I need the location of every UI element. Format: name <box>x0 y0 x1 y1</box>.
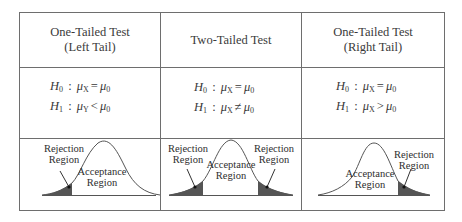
hypotheses-two-tailed: H0 : μX=μ0 H1 : μX≠μ0 <box>194 79 304 119</box>
left-tail-distribution-plot: Rejection Region Acceptance Region <box>20 139 160 211</box>
hypotheses-right-tail: H0 : μX=μ0 H1 : μX>μ0 <box>336 78 446 118</box>
rejection-region-label: Rejection Region <box>34 143 94 165</box>
header-subtitle: (Left Tail) <box>64 40 115 55</box>
hypothesis-test-table: One-Tailed Test (Left Tail) Two-Tailed T… <box>19 12 445 211</box>
header-left-tail: One-Tailed Test (Left Tail) <box>20 13 160 67</box>
header-subtitle: (Right Tail) <box>344 40 402 55</box>
acceptance-region-label: Acceptance Region <box>340 168 400 190</box>
row-divider <box>20 67 444 68</box>
alternative-hypothesis: H1 : μX≠μ0 <box>194 99 304 119</box>
null-hypothesis: H0 : μX=μ0 <box>336 78 446 98</box>
hypotheses-left-tail: H0 : μX=μ0 H1 : μY<μ0 <box>50 78 160 118</box>
header-right-tail: One-Tailed Test (Right Tail) <box>302 13 444 67</box>
header-title: Two-Tailed Test <box>191 33 272 48</box>
alternative-hypothesis: H1 : μX>μ0 <box>336 98 446 118</box>
header-title: One-Tailed Test <box>333 25 413 40</box>
acceptance-region-label: Acceptance Region <box>72 166 132 188</box>
null-hypothesis: H0 : μX=μ0 <box>194 79 304 99</box>
header-title: One-Tailed Test <box>50 25 130 40</box>
right-tail-distribution-plot: Rejection Region Acceptance Region <box>302 139 444 211</box>
acceptance-region-label: Acceptance Region <box>201 159 261 181</box>
two-tailed-distribution-plot: Rejection Region Rejection Region Accept… <box>161 139 301 211</box>
header-two-tailed: Two-Tailed Test <box>161 13 301 67</box>
null-hypothesis: H0 : μX=μ0 <box>50 78 160 98</box>
alternative-hypothesis: H1 : μY<μ0 <box>50 98 160 118</box>
